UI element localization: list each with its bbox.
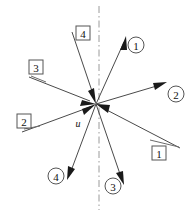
ray-box-3-line <box>29 77 90 101</box>
ray-box-4-arrowhead <box>88 88 96 104</box>
label-circle-4-text: 4 <box>53 171 59 183</box>
ray-circle-1 <box>96 36 127 104</box>
ray-circle-4-arrowhead <box>67 166 75 180</box>
ray-circle-2 <box>96 82 167 104</box>
ray-circle-1-line <box>96 42 124 104</box>
label-box-3-text: 3 <box>33 62 39 74</box>
label-box-4: 4 <box>76 26 90 40</box>
ray-circle-4 <box>67 104 96 180</box>
vector-diagram: u 1 2 3 4 1 2 3 <box>0 0 191 214</box>
label-circle-1-text: 1 <box>133 40 139 52</box>
label-circle-2-text: 2 <box>173 89 179 101</box>
ray-box-4-line <box>72 32 94 97</box>
label-circle-1: 1 <box>128 37 144 53</box>
ray-circle-2-line <box>96 85 160 104</box>
label-box-2: 2 <box>17 114 31 128</box>
label-circle-3: 3 <box>105 178 121 194</box>
ray-box-1-line <box>101 107 180 148</box>
ray-circle-4-line <box>71 104 96 171</box>
ray-box-3 <box>29 77 96 106</box>
label-box-4-text: 4 <box>80 28 86 40</box>
label-box-3: 3 <box>29 60 43 74</box>
ray-box-4 <box>72 32 96 104</box>
label-box-1-text: 1 <box>156 148 162 160</box>
label-circle-2: 2 <box>168 86 184 102</box>
label-box-1: 1 <box>152 146 166 160</box>
origin-label: u <box>76 118 81 129</box>
diagram-canvas: u 1 2 3 4 1 2 3 <box>0 0 191 214</box>
ray-circle-1-arrowhead <box>120 36 127 50</box>
ray-circle-3 <box>96 104 124 185</box>
label-circle-4: 4 <box>48 168 64 184</box>
label-box-2-text: 2 <box>21 116 27 128</box>
label-circle-3-text: 3 <box>110 181 116 193</box>
ray-circle-2-arrowhead <box>153 82 167 90</box>
